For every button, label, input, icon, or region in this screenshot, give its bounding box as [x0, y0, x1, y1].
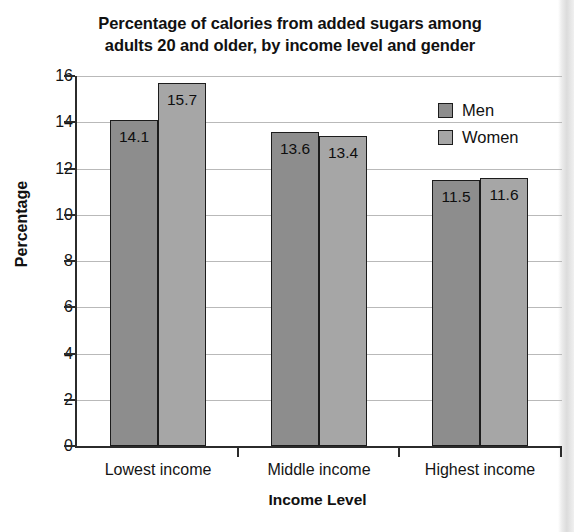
y-axis-tick-mark	[64, 353, 75, 355]
women-swatch-icon	[438, 130, 453, 145]
chart-title-line-1: Percentage of calories from added sugars…	[40, 12, 540, 34]
x-axis-title: Income Level	[75, 491, 560, 509]
y-axis-tick-mark	[64, 399, 75, 401]
legend-item-women: Women	[438, 124, 519, 151]
x-axis-line	[75, 446, 562, 448]
x-axis-tick-mark	[560, 446, 562, 457]
y-axis-tick-mark	[64, 121, 75, 123]
y-axis-tick-mark	[64, 168, 75, 170]
y-axis-tick-mark	[64, 214, 75, 216]
bar-women-1: 13.4	[319, 136, 367, 446]
bar-value-label: 15.7	[159, 91, 205, 109]
bar-women-2: 11.6	[480, 178, 528, 446]
bar-men-0: 14.1	[110, 120, 158, 446]
x-axis-tick-mark	[237, 446, 239, 457]
chart-title-line-2: adults 20 and older, by income level and…	[40, 34, 540, 56]
gridline	[77, 76, 562, 77]
bar-men-1: 13.6	[271, 132, 319, 447]
x-axis-tick-mark	[398, 446, 400, 457]
y-axis-tick-mark	[64, 75, 75, 77]
bar-value-label: 11.6	[481, 186, 527, 204]
bar-men-2: 11.5	[432, 180, 480, 446]
x-axis-category-label: Highest income	[400, 461, 560, 479]
legend-label-men: Men	[462, 101, 494, 120]
y-axis-tick-mark	[64, 445, 75, 447]
bar-value-label: 13.4	[320, 144, 366, 162]
bar-value-label: 11.5	[433, 188, 479, 206]
y-axis-tick-mark	[64, 260, 75, 262]
bar-value-label: 14.1	[111, 128, 157, 146]
men-swatch-icon	[438, 103, 453, 118]
x-axis-category-label: Lowest income	[78, 461, 238, 479]
bar-women-0: 15.7	[158, 83, 206, 446]
legend-label-women: Women	[462, 128, 519, 147]
y-axis-ticks: 1614121086420	[0, 0, 73, 532]
x-axis-category-label: Middle income	[239, 461, 399, 479]
chart-title: Percentage of calories from added sugars…	[40, 12, 540, 56]
y-axis-tick-mark	[64, 306, 75, 308]
bar-value-label: 13.6	[272, 140, 318, 158]
chart-legend: Men Women	[438, 97, 519, 151]
legend-item-men: Men	[438, 97, 519, 124]
